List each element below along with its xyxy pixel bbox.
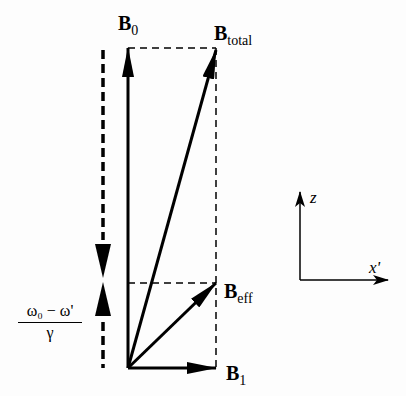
- vector-btotal: [128, 50, 216, 368]
- vectors: [128, 48, 216, 368]
- label-axis-z: z: [310, 188, 317, 208]
- diagram: B0 Btotal Beff B1 z x' ω₀ − ω' γ: [0, 0, 406, 396]
- offset-fraction: ω₀ − ω' γ: [18, 302, 82, 342]
- label-beff: Beff: [224, 280, 253, 307]
- label-btotal: Btotal: [214, 22, 252, 49]
- arrowhead-up-icon: [95, 282, 111, 316]
- label-b0: B0: [118, 12, 138, 39]
- arrowhead-down-icon: [95, 244, 111, 278]
- label-b1: B1: [226, 362, 246, 389]
- fraction-denominator: γ: [18, 323, 82, 342]
- label-axis-x: x': [369, 258, 380, 278]
- fraction-numerator: ω₀ − ω': [18, 302, 82, 323]
- offset-indicator: [95, 50, 111, 368]
